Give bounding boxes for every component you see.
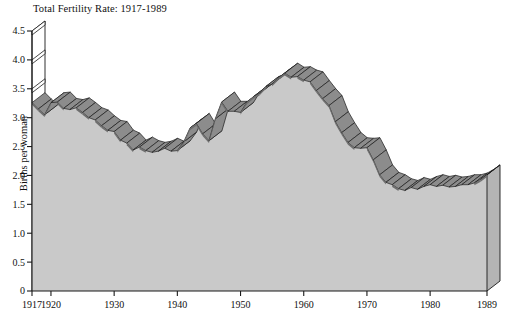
y-tick-label: 0 [20, 285, 25, 296]
x-tick-label: 1970 [357, 299, 377, 310]
x-tick-label: 1917 [22, 299, 42, 310]
y-tick-label: 4.5 [13, 25, 26, 36]
chart-root: Total Fertility Rate: 1917-1989 Births p… [0, 0, 509, 321]
x-axis: 191719201930194019501960197019801989 [22, 291, 497, 310]
y-tick-label: 4.0 [13, 54, 26, 65]
y-tick-label: 2.5 [13, 141, 26, 152]
x-tick-label: 1950 [231, 299, 251, 310]
y-tick-label: 0.5 [13, 257, 26, 268]
y-tick-label: 2.0 [13, 170, 26, 181]
y-tick-label: 3.5 [13, 83, 26, 94]
x-tick-label: 1920 [41, 299, 61, 310]
x-tick-label: 1989 [477, 299, 497, 310]
x-tick-label: 1980 [420, 299, 440, 310]
y-axis: 00.51.01.52.02.53.03.54.04.5 [13, 25, 33, 296]
y-tick-label: 1.0 [13, 228, 26, 239]
x-tick-label: 1940 [167, 299, 187, 310]
fertility-rate-area-chart: 00.51.01.52.02.53.03.54.04.5 19171920193… [0, 0, 509, 321]
y-tick-label: 1.5 [13, 199, 26, 210]
y-tick-label: 3.0 [13, 112, 26, 123]
x-tick-label: 1960 [294, 299, 314, 310]
x-tick-label: 1930 [104, 299, 124, 310]
